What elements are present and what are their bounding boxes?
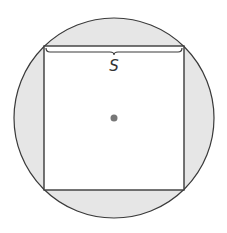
side-label: S: [109, 57, 119, 75]
center-point: [111, 115, 118, 122]
diagram-svg: S: [0, 0, 227, 233]
diagram-canvas: S: [0, 0, 227, 233]
